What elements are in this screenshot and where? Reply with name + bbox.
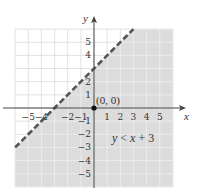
x-tick-label: 5 [157,112,163,122]
y-tick-label: 2 [85,77,91,87]
x-tick-label: −2 [61,112,74,122]
origin-point [91,105,96,110]
y-tick-label: 1 [85,90,91,100]
x-tick-label: −5 [22,112,36,122]
x-tick-label: 4 [144,112,150,122]
y-axis-label: y [82,12,88,24]
origin-label: (0, 0) [96,94,120,107]
y-tick-label: 4 [85,50,91,60]
x-axis-label: x [183,110,189,122]
y-tick-label: 5 [85,37,91,47]
y-tick-label: −3 [78,142,92,152]
y-tick-label: −5 [78,169,92,179]
y-tick-label: −1 [78,116,91,126]
x-tick-label: 1 [104,112,110,122]
y-tick-label: −2 [78,129,91,139]
x-tick-label: −4 [35,112,49,122]
y-tick-label: −4 [78,156,92,166]
x-tick-label: 3 [131,112,137,122]
inequality-label: y < x + 3 [111,131,154,145]
inequality-graph: −5−4−2−112345 5421−1−2−3−4−5 x y (0, 0) … [0,0,197,193]
x-tick-label: 2 [117,112,123,122]
